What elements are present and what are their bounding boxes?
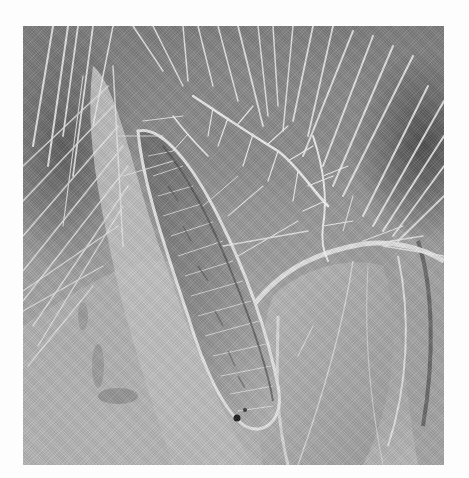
dark-blotch: [92, 344, 104, 388]
micrograph-drawing: [23, 26, 444, 465]
dark-blotch: [78, 302, 88, 330]
dark-blotch: [98, 388, 138, 404]
curved-plate-outer: [393, 226, 444, 465]
sem-micrograph: [23, 26, 444, 465]
dark-pit: [243, 408, 247, 412]
page: [0, 0, 469, 478]
dark-pit: [234, 415, 241, 422]
